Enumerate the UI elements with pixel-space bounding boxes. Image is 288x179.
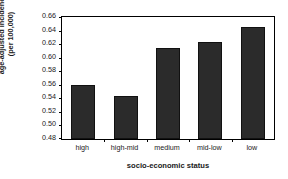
plot-frame: [61, 16, 275, 140]
bar: [241, 27, 265, 139]
y-axis-tick-mark: [59, 98, 62, 99]
x-axis-tick-mark: [232, 139, 233, 142]
y-axis-tick-label: 0.62: [30, 40, 56, 47]
y-axis-tick-mark: [59, 17, 62, 18]
plot-area: [62, 17, 274, 139]
y-axis-tick-label: 0.52: [30, 107, 56, 114]
x-axis-tick-label: high-mid: [111, 143, 139, 152]
y-axis-tick-label: 0.66: [30, 12, 56, 19]
y-axis-tick-mark: [59, 71, 62, 72]
y-axis-tick-label: 0.56: [30, 80, 56, 87]
x-axis-title: socio-economic status: [61, 161, 275, 170]
y-axis-tick-mark: [59, 31, 62, 32]
y-axis-tick-label: 0.60: [30, 53, 56, 60]
y-axis-tick-label: 0.58: [30, 67, 56, 74]
x-axis-tick-label: high: [75, 143, 89, 152]
x-axis-tick-mark: [147, 139, 148, 142]
bar: [114, 96, 138, 139]
y-axis-tick-mark: [59, 112, 62, 113]
y-axis-tick-mark: [59, 44, 62, 45]
x-axis-tick-label: medium: [154, 143, 180, 152]
x-axis-tick-mark: [104, 139, 105, 142]
y-axis-tick-label: 0.64: [30, 26, 56, 33]
y-axis-tick-mark: [59, 85, 62, 86]
bar: [156, 48, 180, 139]
y-axis-tick-label: 0.48: [30, 134, 56, 141]
y-axis-tick-mark: [59, 125, 62, 126]
y-axis-tick-labels: 0.480.500.520.540.560.580.600.620.640.66: [30, 16, 56, 140]
bar: [198, 42, 222, 139]
x-axis-tick-mark: [189, 139, 190, 142]
y-axis-tick-mark: [59, 138, 62, 139]
y-axis-tick-mark: [59, 58, 62, 59]
x-axis-tick-label: mid-low: [197, 143, 222, 152]
x-axis-tick-labels: highhigh-midmediummid-lowlow: [61, 143, 275, 155]
x-axis-tick-label: low: [246, 143, 257, 152]
y-axis-tick-label: 0.50: [30, 121, 56, 128]
y-axis-title: age-adjusted incidence (per 100,000): [0, 0, 19, 95]
y-axis-title-line-2: (per 100,000): [6, 12, 15, 57]
bar-chart: age-adjusted incidence (per 100,000) 0.4…: [0, 0, 288, 179]
y-axis-tick-label: 0.54: [30, 94, 56, 101]
bar: [71, 85, 95, 139]
